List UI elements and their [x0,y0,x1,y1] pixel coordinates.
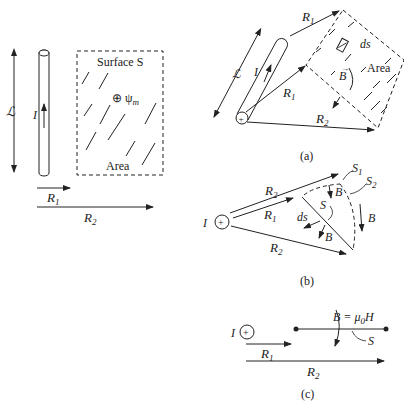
b-label-b2: B [368,211,376,225]
length-label-a: ℒ [232,67,241,81]
r2-arrow-a [247,122,374,130]
b-arc-a [349,68,353,90]
r1-top-label-a: R1 [301,9,314,26]
magnetic-flux-diagram: ℒ I Surface S ⊕ ψm Area R1 R2 [0,0,404,406]
caption-a: (a) [300,149,313,163]
ds-label-b: ds [297,210,308,224]
left-figure: ℒ I Surface S ⊕ ψm Area R1 R2 [6,50,163,227]
s-label-b: S [320,198,326,212]
s2-label: S2 [366,174,377,190]
wire-cylinder-a: + [236,38,288,124]
figure-c: + I B = μ0H S R1 R2 (c) [230,310,389,401]
r1-label-b: R1 [263,207,276,224]
r2-bottom-label-b: R2 [269,240,283,257]
ds-label-a: ds [360,37,371,51]
current-label: I [32,108,38,122]
area-hatching [82,72,156,165]
b-label-b1: B [335,185,343,199]
length-label: ℒ [6,104,16,119]
endpoint-left [294,327,299,332]
r1-mid-label-a: R1 [282,85,295,102]
b-eq-label: B = μ0H [333,310,375,326]
endpoint-right [384,327,389,332]
r2-label: R2 [83,210,97,227]
area-label-a: Area [367,61,391,75]
r2-label-a: R2 [315,111,329,128]
ds-patch [337,38,349,52]
caption-c: (c) [301,387,314,401]
s1-label: S1 [352,161,363,177]
b-arrow-b2 [360,204,362,231]
figure-a: ℒ + I R1 R1 R2 ds B → Area [214,9,404,163]
svg-text:→: → [341,64,349,73]
b-arrow-a [333,97,340,108]
surface-s [77,51,163,175]
svg-text:+: + [218,217,224,228]
svg-text:+: + [243,327,249,338]
current-label-c: I [230,326,236,340]
s-label-c: S [368,334,374,348]
flux-label: ⊕ ψm [112,91,140,107]
b-arrow-b1 [329,185,331,198]
r1-label: R1 [46,190,59,207]
r2-top-label-b: R2 [264,183,278,200]
r2-label-c: R2 [306,364,320,381]
r1-label-c: R1 [260,346,273,363]
current-label-b: I [202,216,208,230]
surface-label: Surface S [97,55,143,69]
figure-b: + I R2 R1 R2 S1 S2 B B B S ds [202,161,377,288]
area-label: Area [106,159,130,173]
svg-text:+: + [239,114,244,124]
b-label-b3: B [325,230,333,244]
caption-b: (b) [300,274,314,288]
